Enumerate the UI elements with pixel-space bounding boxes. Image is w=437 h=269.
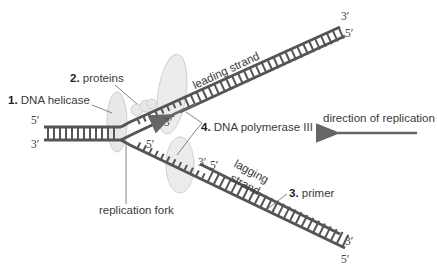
label-proteins: 2. proteins xyxy=(70,73,124,85)
end-upper-top: 3′ xyxy=(341,11,349,23)
end-lower-bottom: 5′ xyxy=(341,254,349,266)
end-upper-bottom: 5′ xyxy=(345,28,353,40)
proteins-text: proteins xyxy=(83,72,124,84)
label-helicase: 1. DNA helicase xyxy=(8,95,90,107)
end-parent-bottom: 3′ xyxy=(31,139,39,151)
polymerase-text: DNA polymerase III xyxy=(214,121,313,133)
label-primer: 3. primer xyxy=(289,188,334,200)
helicase-number: 1. xyxy=(8,94,18,106)
proteins-number: 2. xyxy=(70,72,80,84)
polymerase-number: 4. xyxy=(201,121,211,133)
helicase-text: DNA helicase xyxy=(21,94,90,106)
label-direction: direction of replication xyxy=(323,113,435,125)
end-parent-top: 5′ xyxy=(31,115,39,127)
primer-number: 3. xyxy=(289,187,299,199)
primer-text: primer xyxy=(302,187,335,199)
end-lower-top: 3′ xyxy=(345,236,353,248)
end-lagging-template: 5′ xyxy=(146,139,154,151)
label-replication-fork: replication fork xyxy=(99,205,174,217)
end-leading-new: 3′ xyxy=(164,117,172,129)
proteins-shape xyxy=(131,99,157,116)
end-okazaki-3: 3′ xyxy=(198,157,206,169)
end-okazaki-5: 5′ xyxy=(210,160,218,172)
replication-diagram xyxy=(0,0,437,269)
label-polymerase: 4. DNA polymerase III xyxy=(201,122,313,134)
